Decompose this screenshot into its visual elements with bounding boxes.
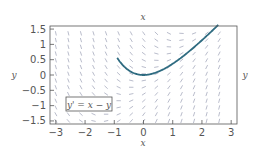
svg-text:−1: −1 <box>107 127 122 138</box>
svg-text:0: 0 <box>140 127 146 138</box>
svg-text:1: 1 <box>170 127 176 138</box>
equation-annotation: y' = x − y <box>66 97 112 111</box>
top-axis-label: x <box>140 12 145 22</box>
slope-field-chart: −3−2−101231.510.50−0.5−1−1.5 x x y y y' … <box>0 0 256 151</box>
svg-text:2: 2 <box>199 127 205 138</box>
svg-text:1.5: 1.5 <box>30 24 46 35</box>
svg-text:−1: −1 <box>31 100 46 111</box>
svg-text:0: 0 <box>40 70 46 81</box>
svg-text:0.5: 0.5 <box>30 54 46 65</box>
y-axis-label: y <box>10 70 17 80</box>
svg-text:−2: −2 <box>78 127 93 138</box>
svg-text:−0.5: −0.5 <box>22 85 46 96</box>
x-axis-label: x <box>140 138 145 148</box>
svg-text:3: 3 <box>228 127 234 138</box>
right-axis-label: y <box>241 70 248 80</box>
svg-text:1: 1 <box>40 39 46 50</box>
svg-text:−3: −3 <box>48 127 63 138</box>
svg-text:y' = x − y: y' = x − y <box>66 100 112 110</box>
svg-text:−1.5: −1.5 <box>22 115 46 126</box>
